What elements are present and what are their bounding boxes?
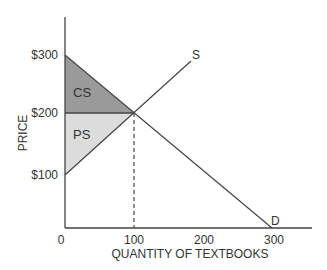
ps-label: PS (73, 127, 91, 142)
x-tick-200: 200 (194, 233, 214, 247)
x-axis-title: QUANTITY OF TEXTBOOKS (112, 247, 269, 261)
cs-label: CS (73, 85, 91, 100)
x-tick-300: 300 (264, 233, 284, 247)
y-tick-100: $100 (31, 168, 58, 182)
y-axis-title: PRICE (16, 115, 30, 152)
supply-demand-chart: $300 $200 $100 0 100 200 300 QUANTITY OF… (0, 0, 327, 270)
supply-label: S (192, 48, 200, 62)
x-tick-0: 0 (58, 233, 65, 247)
y-tick-200: $200 (31, 106, 58, 120)
x-tick-100: 100 (124, 233, 144, 247)
demand-label: D (271, 214, 280, 228)
y-tick-300: $300 (31, 48, 58, 62)
